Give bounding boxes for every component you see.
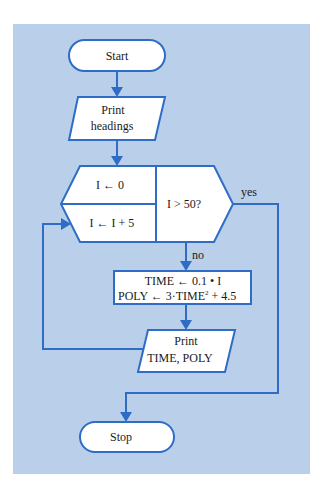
print-headings-line2: headings xyxy=(91,119,134,133)
process-line2: POLY ← 3·TIME2 + 4.5 xyxy=(118,289,236,303)
loop-increment-label: I ← I + 5 xyxy=(90,216,135,230)
process-line1: TIME ← 0.1 • I xyxy=(145,274,222,288)
decision-label: I > 50? xyxy=(167,197,201,211)
no-label: no xyxy=(192,248,204,262)
yes-label: yes xyxy=(241,185,257,199)
process-line2-tail: + 4.5 xyxy=(209,289,237,303)
loop-init-label: I ← 0 xyxy=(96,178,124,192)
arrow-head-icon xyxy=(180,320,192,330)
arrow-head-icon xyxy=(111,87,123,97)
print-output-line2: TIME, POLY xyxy=(147,351,213,365)
start-label: Start xyxy=(106,49,129,63)
arrow-head-icon xyxy=(111,156,123,166)
arrow-head-icon xyxy=(120,412,132,422)
stop-label: Stop xyxy=(110,430,132,444)
flowchart: Start Print headings I ← 0 I ← I + 5 I >… xyxy=(0,0,323,495)
print-headings-line1: Print xyxy=(101,103,125,117)
process-line2-main: POLY ← 3·TIME xyxy=(118,289,205,303)
arrow-head-icon xyxy=(180,261,192,271)
print-output-line1: Print xyxy=(174,334,198,348)
